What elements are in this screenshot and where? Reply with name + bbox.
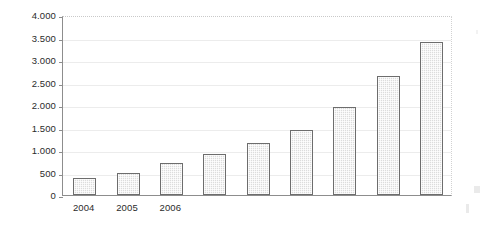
bar-chart-figure: 05001.0001.5002.0002.5003.0003.5004.000 …	[0, 0, 490, 233]
y-axis-tick-label: 2.000	[10, 101, 56, 111]
x-axis-tick-label: 2004	[73, 203, 95, 213]
bar	[203, 154, 226, 195]
bar	[160, 163, 183, 195]
y-axis-tick-label: 500	[10, 169, 56, 179]
bar	[247, 143, 270, 195]
y-axis-tick-label: 0	[10, 191, 56, 201]
y-axis-tick	[59, 197, 63, 198]
scan-artifact	[476, 30, 478, 34]
scan-artifact	[466, 204, 469, 213]
y-axis-tick-label: 4.000	[10, 11, 56, 21]
bar-series	[63, 17, 451, 195]
x-axis-tick-label: 2005	[116, 203, 138, 213]
y-axis-tick-label: 1.000	[10, 146, 56, 156]
scan-artifact	[474, 186, 480, 193]
x-axis-tick-label: 2006	[160, 203, 182, 213]
y-axis-tick-label: 3.000	[10, 56, 56, 66]
bar	[73, 178, 96, 195]
plot-area	[62, 16, 452, 196]
bar	[117, 173, 140, 196]
bar	[420, 42, 443, 195]
bar	[290, 130, 313, 195]
y-axis-tick-label: 1.500	[10, 124, 56, 134]
bar	[333, 107, 356, 195]
y-axis-tick-label: 2.500	[10, 79, 56, 89]
y-axis-tick-label: 3.500	[10, 34, 56, 44]
bar	[377, 76, 400, 195]
